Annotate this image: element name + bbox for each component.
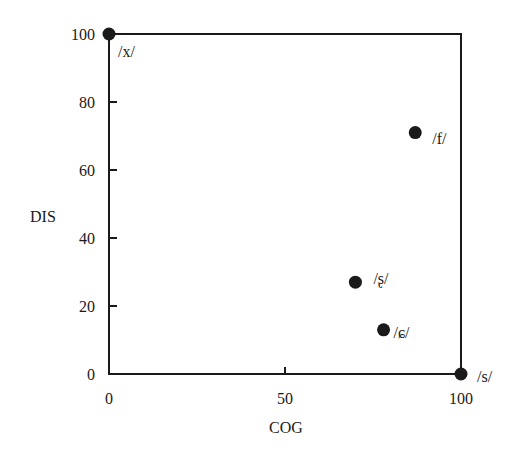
x-tick-label: 50 <box>277 390 293 407</box>
y-tick-label: 20 <box>79 298 95 315</box>
data-point: /ɕ/ <box>377 323 410 341</box>
x-axis-title: COG <box>269 419 303 436</box>
y-tick-label: 60 <box>79 162 95 179</box>
point-label: /ɕ/ <box>394 324 411 341</box>
x-tick-label: 0 <box>105 390 113 407</box>
scatter-chart: 020406080100 050100 DIS COG /x//f//ʂ//ɕ/… <box>0 0 525 464</box>
point-label: /s/ <box>477 368 493 385</box>
point-marker <box>103 28 116 41</box>
y-tick-label: 100 <box>71 26 95 43</box>
point-marker <box>349 276 362 289</box>
y-axis-ticks: 020406080100 <box>71 26 117 383</box>
data-point: /f/ <box>409 126 447 147</box>
point-marker <box>455 368 468 381</box>
data-point: /x/ <box>103 28 136 61</box>
x-tick-label: 100 <box>449 390 473 407</box>
y-tick-label: 0 <box>87 366 95 383</box>
y-axis-title: DIS <box>30 208 56 225</box>
point-label: /ʂ/ <box>373 270 389 288</box>
data-points: /x//f//ʂ//ɕ//s/ <box>103 28 493 386</box>
data-point: /s/ <box>455 368 493 386</box>
point-marker <box>377 323 390 336</box>
point-label: /x/ <box>118 43 135 60</box>
y-tick-label: 40 <box>79 230 95 247</box>
data-point: /ʂ/ <box>349 270 389 289</box>
point-marker <box>409 126 422 139</box>
y-tick-label: 80 <box>79 94 95 111</box>
point-label: /f/ <box>432 130 447 147</box>
